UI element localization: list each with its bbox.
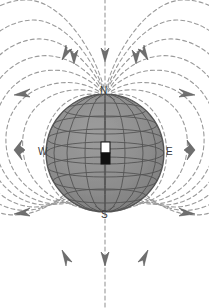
magnetic-field-diagram: N S W E: [0, 0, 209, 308]
label-east: E: [166, 147, 173, 157]
magnet-north-half: [101, 142, 110, 153]
arrowhead-mid-upper-left: [14, 89, 30, 97]
field-line-canvas: [0, 0, 209, 308]
bar-magnet: [101, 142, 110, 164]
arrowhead-equator-left: [14, 140, 25, 160]
label-north: N: [100, 86, 107, 96]
magnet-south-half: [101, 153, 110, 164]
label-west: W: [38, 147, 47, 157]
arrowhead-lower-left-1: [62, 250, 72, 266]
label-south: S: [101, 210, 108, 220]
arrowhead-lower-right-1: [138, 250, 148, 266]
arrowhead-mid-upper-right: [179, 89, 195, 97]
